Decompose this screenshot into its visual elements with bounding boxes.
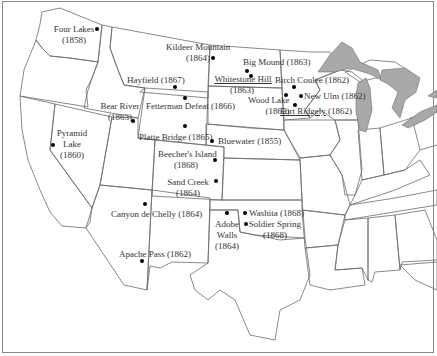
label-year: (1863) <box>100 112 140 123</box>
label-year: (1860) <box>54 150 90 161</box>
label-new-ulm: New Ulm (1862) <box>304 91 366 102</box>
label-bear-river: Bear River (1863) <box>100 101 140 123</box>
label-fetterman-defeat: Fetterman Defeat (1866) <box>146 101 235 112</box>
label-name: Adobe <box>211 219 243 230</box>
great-lakes <box>318 42 437 132</box>
label-year: (1864) <box>166 188 210 199</box>
marker-platte-bridge <box>183 124 187 128</box>
label-pyramid-lake: Pyramid Lake (1860) <box>54 128 90 161</box>
label-name: Bear River <box>100 101 140 112</box>
label-name-2: Lake <box>54 139 90 150</box>
label-birch-coulee: Birch Coulee (1862) <box>275 75 349 86</box>
label-name-2: Walls <box>211 230 243 241</box>
marker-new-ulm <box>299 94 303 98</box>
marker-washita <box>243 211 247 215</box>
label-kildeer-mountain: Kildeer Mountain (1864) <box>166 42 210 64</box>
label-whitestone-hill: Whitestone Hill (1863) <box>214 74 272 96</box>
label-big-mound: Big Mound (1863) <box>243 57 311 68</box>
label-fort-ridgely: Fort Ridgely (1862) <box>280 106 352 117</box>
label-canyon-de-chelly: Canyon de Chelly (1864) <box>111 209 202 220</box>
marker-canyon-de-chelly <box>143 202 147 206</box>
us-map <box>0 0 437 356</box>
label-bluewater: Bluewater (1855) <box>218 136 281 147</box>
marker-fetterman-defeat <box>183 96 187 100</box>
state-boundaries <box>20 8 437 340</box>
label-year: (1868) <box>158 160 214 171</box>
label-adobe-walls: Adobe Walls (1864) <box>211 219 243 252</box>
label-name: Fort Ridgely <box>280 106 326 116</box>
label-sand-creek: Sand Creek (1864) <box>166 177 210 199</box>
label-soldier-spring: Soldier Spring (1868) <box>248 219 302 241</box>
label-name: Beecher's Island <box>158 149 214 160</box>
lake-ontario <box>428 90 437 98</box>
label-washita: Washita (1868) <box>249 208 304 219</box>
label-apache-pass: Apache Pass (1862) <box>119 249 191 260</box>
label-beechers-island: Beecher's Island (1868) <box>158 149 214 171</box>
label-hayfield: Hayfield (1867) <box>127 75 185 86</box>
lake-michigan <box>356 78 372 132</box>
marker-adobe-walls <box>225 211 229 215</box>
marker-sand-creek <box>214 179 218 183</box>
lake-erie <box>402 105 437 128</box>
label-name: Pyramid <box>54 128 90 139</box>
label-year: (1864) <box>166 53 210 64</box>
label-name: Four Lakes <box>52 24 96 35</box>
marker-big-mound <box>245 69 249 73</box>
label-year: (1862) <box>326 106 352 116</box>
label-year: (1864) <box>211 241 243 252</box>
label-name: Kildeer Mountain <box>166 42 210 53</box>
label-year: (1868) <box>248 230 302 241</box>
label-name: Sand Creek <box>166 177 210 188</box>
label-four-lakes: Four Lakes (1858) <box>52 24 96 46</box>
marker-kildeer-mountain <box>211 56 215 60</box>
label-year: (1858) <box>52 35 96 46</box>
lake-huron <box>380 68 420 118</box>
label-name: Wood Lake <box>248 95 290 106</box>
label-name: Whitestone Hill <box>214 74 272 85</box>
label-platte-bridge: Platte Bridge (1865) <box>139 132 213 143</box>
label-name: Soldier Spring <box>248 219 302 230</box>
